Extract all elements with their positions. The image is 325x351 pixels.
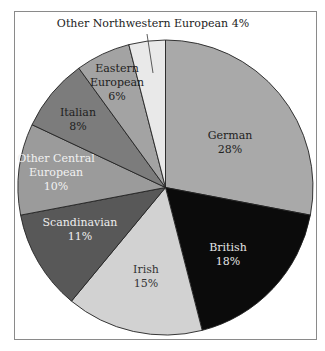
slice-label: British	[209, 241, 247, 254]
callout-label: Other Northwestern European 4%	[57, 17, 249, 30]
slice-label: 8%	[69, 120, 86, 133]
slice-label: Irish	[133, 263, 159, 276]
slice-label: European	[90, 76, 144, 89]
slice-label: 15%	[134, 277, 158, 290]
slice-label: 18%	[216, 255, 240, 268]
pie-slice-german	[166, 40, 313, 215]
slice-label: 28%	[218, 143, 242, 156]
slice-label: 6%	[108, 90, 125, 103]
pie-chart: German28%British18%Irish15%Scandinavian1…	[0, 0, 325, 351]
slice-label: Scandinavian	[43, 216, 118, 229]
slice-label: Italian	[60, 106, 96, 119]
slice-label: Other Central	[17, 152, 95, 165]
slice-label: European	[29, 166, 83, 179]
slice-label: Eastern	[95, 62, 139, 75]
slice-label: German	[208, 129, 253, 142]
slice-label: 10%	[44, 180, 68, 193]
slice-label: 11%	[68, 230, 92, 243]
